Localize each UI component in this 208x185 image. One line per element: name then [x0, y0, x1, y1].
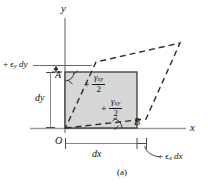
figure-caption: (a): [117, 168, 127, 177]
dy-dimension-label: dy: [35, 93, 44, 103]
strain-element-figure: y x O A B dy dx + ϵy dy + ϵx dx + γxy 2 …: [0, 0, 208, 185]
shear-strain-lower-numerator: γxy: [109, 97, 122, 107]
shear-strain-upper-plus-sign: +: [84, 79, 90, 90]
shear-strain-lower-plus-sign: +: [101, 103, 107, 114]
dx-dimension-label: dx: [92, 149, 101, 159]
shear-strain-lower-subscript: xy: [115, 99, 121, 106]
shear-strain-lower-denominator: 2: [109, 109, 122, 118]
shear-strain-upper-numerator: γxy: [92, 73, 105, 83]
normal-strain-y-tail: dy: [17, 59, 28, 69]
origin-label: O: [55, 136, 62, 146]
normal-strain-x-tail: dx: [172, 151, 183, 161]
normal-strain-x-label: + ϵx dx: [158, 152, 183, 162]
point-a-label: A: [55, 70, 61, 80]
shear-strain-label-upper: + γxy 2: [92, 73, 105, 95]
x-axis-label: x: [190, 122, 195, 133]
shear-strain-upper-denominator: 2: [92, 85, 105, 94]
normal-strain-y-label: + ϵy dy: [3, 60, 28, 70]
normal-strain-y-head: + ϵ: [3, 59, 14, 69]
shear-strain-label-lower: + γxy 2: [109, 97, 122, 119]
y-axis-label: y: [61, 3, 66, 14]
point-b-label: B: [134, 117, 140, 127]
shear-strain-upper-subscript: xy: [98, 75, 104, 82]
normal-strain-x-head: + ϵ: [158, 151, 169, 161]
